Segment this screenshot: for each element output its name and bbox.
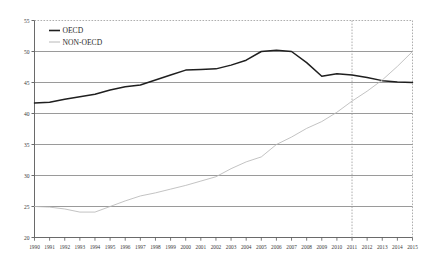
y-tick-label-50: 50 <box>24 49 30 55</box>
x-tick-label-1992: 1992 <box>59 244 70 250</box>
x-tick-label-2013: 2013 <box>377 244 388 250</box>
x-tick-label-1990: 1990 <box>29 244 40 250</box>
x-tick-label-2001: 2001 <box>196 244 207 250</box>
y-tick-label-35: 35 <box>24 142 30 148</box>
x-tick-label-1991: 1991 <box>44 244 55 250</box>
x-tick-label-1994: 1994 <box>90 244 101 250</box>
x-tick-label-2000: 2000 <box>180 244 191 250</box>
x-tick-label-2014: 2014 <box>392 244 403 250</box>
legend-label-non-oecd: NON-OECD <box>63 38 103 47</box>
x-tick-label-2015: 2015 <box>407 244 418 250</box>
y-tick-label-25: 25 <box>24 204 30 210</box>
x-tick-label-1999: 1999 <box>165 244 176 250</box>
x-tick-label-2010: 2010 <box>332 244 343 250</box>
chart-svg: 2025303540455055 19901991199219931994199… <box>0 0 431 267</box>
x-tick-label-2004: 2004 <box>241 244 252 250</box>
x-tick-label-1997: 1997 <box>135 244 146 250</box>
y-tick-label-45: 45 <box>24 80 30 86</box>
x-tick-label-2005: 2005 <box>256 244 267 250</box>
x-tick-label-2006: 2006 <box>271 244 282 250</box>
y-tick-label-40: 40 <box>24 111 30 117</box>
x-tick-label-1998: 1998 <box>150 244 161 250</box>
x-tick-label-2009: 2009 <box>316 244 327 250</box>
x-tick-label-2007: 2007 <box>286 244 297 250</box>
x-tick-label-2003: 2003 <box>226 244 237 250</box>
legend-label-oecd: OECD <box>63 26 84 35</box>
y-tick-label-30: 30 <box>24 173 30 179</box>
x-tick-label-1996: 1996 <box>120 244 131 250</box>
x-tick-label-2011: 2011 <box>347 244 358 250</box>
line-chart: 2025303540455055 19901991199219931994199… <box>0 0 431 267</box>
x-tick-label-2008: 2008 <box>301 244 312 250</box>
x-tick-label-1993: 1993 <box>75 244 86 250</box>
x-tick-label-1995: 1995 <box>105 244 116 250</box>
y-tick-label-55: 55 <box>24 18 30 24</box>
x-tick-label-2002: 2002 <box>211 244 222 250</box>
y-tick-label-20: 20 <box>24 235 30 241</box>
x-tick-label-2012: 2012 <box>362 244 373 250</box>
